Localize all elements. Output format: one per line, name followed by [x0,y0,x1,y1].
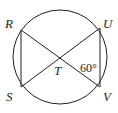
label-s: S [6,89,13,104]
circle-diagram: R U S V T 60° [0,0,118,113]
angle-label: 60° [80,61,97,75]
circle [13,10,107,104]
label-r: R [4,16,13,31]
label-v: V [103,89,113,104]
label-u: U [103,16,114,31]
label-t: T [54,63,62,78]
